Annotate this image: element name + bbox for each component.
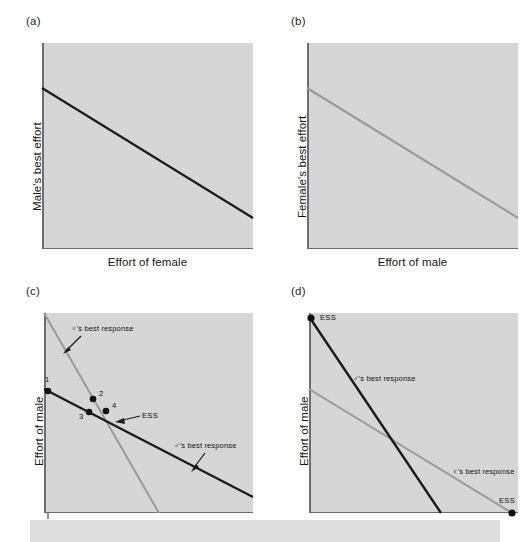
panel-c-point-2	[90, 396, 97, 403]
figure-container: (a) Male's best effort Effort of female …	[0, 0, 530, 542]
panel-d: (d) ESS ESS ♂'s best response ♀'s best r…	[265, 271, 530, 542]
panel-c-ess-label: ESS	[142, 411, 158, 420]
panel-b-x-axis-label: Effort of male	[307, 256, 518, 268]
panel-c-ess-arrow	[115, 416, 140, 424]
panel-d-female-best-response-line	[309, 389, 512, 513]
panel-c: (c)	[0, 271, 265, 542]
panel-a: (a) Male's best effort Effort of female	[0, 0, 265, 271]
panel-d-y-axis-label: Effort of male	[298, 396, 310, 466]
panel-a-lines	[42, 43, 253, 249]
panel-c-y-axis-label: Effort of male	[33, 396, 45, 466]
panel-a-label: (a)	[26, 15, 41, 27]
panel-d-ess-point-top	[307, 314, 314, 321]
panel-c-label: (c)	[26, 285, 40, 297]
panel-b-lines	[307, 43, 518, 249]
panel-d-ess-label-top: ESS	[320, 313, 336, 322]
panel-a-male-best-effort-line	[42, 88, 253, 218]
panel-b-female-best-effort-line	[307, 88, 518, 218]
panel-b-y-axis-label: Female's best effort	[296, 116, 308, 218]
panel-a-x-axis-label: Effort of female	[42, 256, 253, 268]
panel-c-point-3-label: 3	[79, 412, 83, 421]
panel-c-point-3	[86, 409, 93, 416]
panel-c-male-response-label: ♂'s best response	[174, 441, 236, 450]
panel-c-point-1-label: 1	[45, 375, 49, 384]
panel-c-point-4-label: 4	[112, 401, 116, 410]
panel-d-ess-point-bottom	[508, 509, 515, 516]
panel-d-male-best-response-line	[310, 318, 441, 513]
panel-d-female-response-label: ♀'s best response	[452, 467, 514, 476]
panel-c-female-response-label: ♀'s best response	[71, 324, 133, 333]
panel-c-point-4	[103, 408, 110, 415]
panel-c-point-1	[45, 388, 52, 395]
panel-a-y-axis-label: Male's best effort	[31, 122, 43, 211]
panel-c-point-2-label: 2	[99, 389, 103, 398]
panel-d-lines	[309, 313, 518, 513]
panel-d-plot-area: ESS ESS ♂'s best response ♀'s best respo…	[309, 313, 518, 513]
panel-b-label: (b)	[291, 15, 306, 27]
panel-d-ess-label-bottom: ESS	[499, 496, 515, 505]
panel-d-label: (d)	[291, 285, 306, 297]
panel-d-male-response-label: ♂'s best response	[353, 374, 415, 383]
panel-a-plot-area	[42, 43, 253, 249]
panel-c-female-response-arrow	[63, 336, 81, 354]
caption-bar	[30, 520, 500, 542]
panel-b: (b) Female's best effort Effort of male	[265, 0, 530, 271]
panel-b-plot-area	[307, 43, 518, 249]
panel-c-plot-area: ♀'s best response ♂'s best response ESS …	[44, 313, 253, 513]
